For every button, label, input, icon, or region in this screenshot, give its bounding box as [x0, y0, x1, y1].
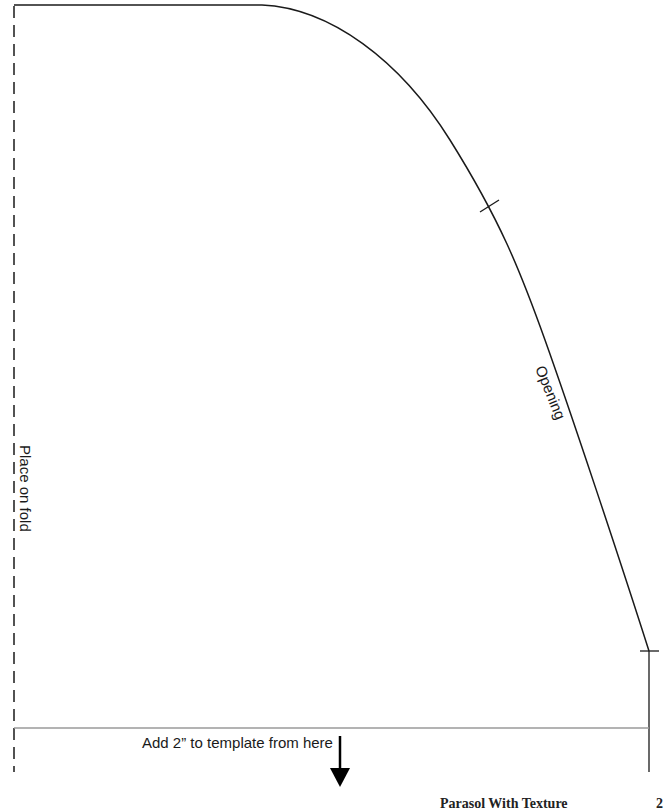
page-number: 2 — [656, 796, 663, 812]
down-arrow-icon — [330, 736, 350, 787]
fold-label: Place on fold — [17, 445, 34, 532]
extension-instruction: Add 2” to template from here — [142, 734, 333, 751]
notch-mark — [480, 200, 499, 212]
opening-curve — [262, 5, 649, 651]
footer-title: Parasol With Texture — [440, 796, 568, 812]
